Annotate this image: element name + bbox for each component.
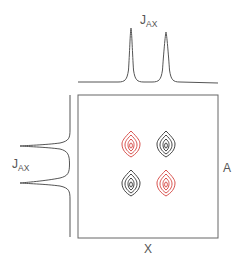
crosspeak-top-right xyxy=(157,131,175,157)
crosspeak-bottom-left xyxy=(122,170,140,196)
crosspeak-bottom-right xyxy=(157,170,175,196)
nmr-diagram: JAX JAX A X xyxy=(0,0,240,270)
crosspeak-top-left xyxy=(122,131,140,157)
left-jax-label: JAX xyxy=(12,157,30,173)
axis-label-x: X xyxy=(144,242,152,256)
top-jax-label: JAX xyxy=(140,13,158,29)
plot-frame xyxy=(78,95,218,238)
axis-label-a: A xyxy=(223,161,231,175)
top-projection-spectrum xyxy=(78,28,218,83)
